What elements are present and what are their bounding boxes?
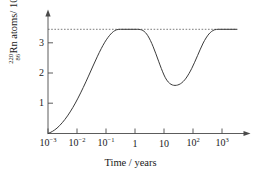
plot-area (0, 0, 261, 181)
x-tick-label-1e-1: 10−1 (98, 138, 115, 148)
x-tick-label-1e3: 103 (215, 138, 228, 148)
y-axis-arrow-icon (45, 10, 50, 17)
x-tick-label-1: 1 (133, 139, 138, 149)
x-tick-label-1e-2: 10−2 (69, 138, 86, 148)
y-axis-ticks (48, 43, 53, 103)
x-tick-label-1e2: 102 (186, 138, 199, 148)
x-tick-label-10: 10 (159, 139, 169, 149)
y-tick-label-3: 3 (34, 38, 44, 48)
x-tick-label-1e-3: 10−3 (40, 138, 57, 148)
x-axis-ticks (48, 129, 222, 134)
y-tick-label-2: 2 (34, 68, 44, 78)
y-tick-label-1: 1 (34, 98, 44, 108)
x-axis-title: Time / years (0, 157, 261, 168)
data-curve (48, 29, 237, 133)
x-axis-arrow-icon (244, 131, 251, 136)
chart-figure: 10−3 10−2 10−1 1 10 102 103 1 2 3 Time /… (0, 0, 261, 181)
